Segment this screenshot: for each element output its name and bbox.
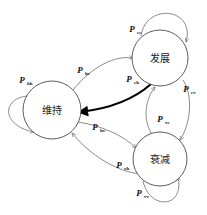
- transition-label-ee-symbol: P: [129, 24, 135, 34]
- transition-label-ve-symbol: P: [157, 114, 163, 124]
- transition-label-eh-subscript: eh: [134, 80, 139, 85]
- transition-label-he-symbol: P: [77, 65, 83, 75]
- state-node-fazhan[interactable]: 发展: [132, 30, 188, 86]
- state-node-shuaijian[interactable]: 衰减: [133, 132, 187, 186]
- state-label-weichi: 维持: [42, 104, 62, 116]
- edge-weichi-to-shuaijian: [78, 122, 136, 148]
- transition-label-he-subscript: he: [85, 71, 91, 76]
- transition-label-hv-subscript: hv: [100, 128, 106, 133]
- transition-label-eh: P eh: [126, 74, 139, 85]
- transition-label-hh-symbol: P: [19, 75, 25, 85]
- transition-label-ee: P ee: [129, 24, 142, 35]
- transition-label-ev: P ev: [183, 84, 196, 95]
- transition-label-ve: P ve: [157, 114, 170, 125]
- transition-label-ve-subscript: ve: [165, 120, 171, 125]
- transition-label-hv: P hv: [92, 122, 106, 133]
- transition-label-eh-symbol: P: [126, 74, 132, 84]
- transition-label-hv-symbol: P: [92, 122, 98, 132]
- transition-label-vh: P vh: [116, 160, 129, 171]
- transition-label-vh-subscript: vh: [124, 166, 130, 171]
- edge-shuaijian-to-fazhan: [146, 87, 155, 133]
- edge-shuaijian-to-weichi: [72, 133, 141, 174]
- transition-label-vv-symbol: P: [136, 188, 142, 198]
- transition-label-ev-symbol: P: [183, 84, 189, 94]
- transition-label-ev-subscript: ev: [191, 90, 196, 95]
- transition-label-hh: P hh: [19, 75, 33, 86]
- state-label-fazhan: 发展: [150, 52, 170, 64]
- transition-label-vv: P vv: [136, 188, 149, 199]
- transition-label-ee-subscript: ee: [137, 30, 142, 35]
- transition-label-vv-subscript: vv: [144, 194, 150, 199]
- state-label-shuaijian: 衰减: [150, 153, 170, 165]
- transition-label-vh-symbol: P: [116, 160, 122, 170]
- state-node-weichi[interactable]: 维持: [23, 81, 81, 139]
- diagram-canvas: 维持 发展 衰减 P ee P hh P vv P he P: [0, 0, 207, 215]
- state-transition-diagram: 维持 发展 衰减 P ee P hh P vv P he P: [0, 0, 207, 215]
- transition-label-hh-subscript: hh: [27, 81, 33, 86]
- edge-fazhan-to-weichi-highlight: [80, 84, 151, 112]
- transition-label-he: P he: [77, 65, 91, 76]
